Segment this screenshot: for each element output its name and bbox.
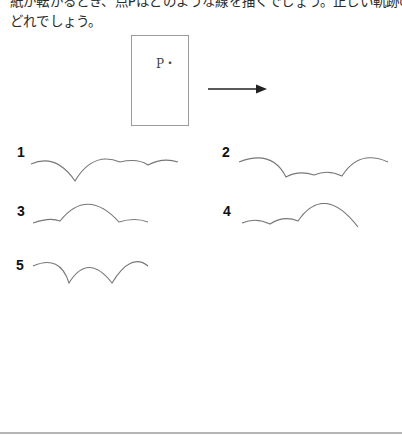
choice-number: 3 — [17, 203, 25, 219]
bottom-divider — [0, 432, 402, 434]
point-p-label: P・ — [156, 54, 176, 71]
trajectory-curve-2 — [236, 155, 392, 190]
choice-number: 5 — [16, 257, 24, 273]
choice-number: 4 — [223, 203, 231, 219]
arrow-right-icon — [206, 82, 270, 96]
question-line-1: 紙が転がるとき、点Pはどのような線を描くでしょう。正しい軌跡の図は — [10, 0, 400, 11]
rolling-paper-figure: P・ — [131, 35, 189, 126]
trajectory-curve-5 — [30, 258, 155, 288]
question-text: 紙が転がるとき、点Pはどのような線を描くでしょう。正しい軌跡の図は どれでしょう… — [10, 0, 400, 31]
trajectory-curve-4 — [240, 203, 365, 238]
question-line-2: どれでしょう。 — [10, 11, 400, 31]
trajectory-curve-1 — [28, 155, 183, 190]
trajectory-curve-3 — [30, 203, 155, 238]
choice-number: 1 — [17, 144, 25, 160]
choice-number: 2 — [222, 144, 230, 160]
